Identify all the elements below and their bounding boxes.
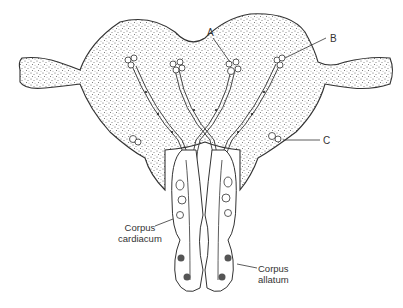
diagram-canvas: A B C Corpus cardiacum Corpus allatum <box>0 0 403 308</box>
label-a: A <box>207 27 214 38</box>
label-b: B <box>330 33 337 44</box>
label-ca-line2: allatum <box>258 274 289 285</box>
label-corpus-allatum: Corpus allatum <box>258 263 289 285</box>
brain-diagram <box>0 0 403 308</box>
label-cc-line2: cardiacum <box>118 233 162 244</box>
label-ca-line1: Corpus <box>258 263 289 274</box>
label-c: C <box>323 135 330 146</box>
label-cc-line1: Corpus <box>118 222 162 233</box>
label-corpus-cardiacum: Corpus cardiacum <box>118 222 162 244</box>
